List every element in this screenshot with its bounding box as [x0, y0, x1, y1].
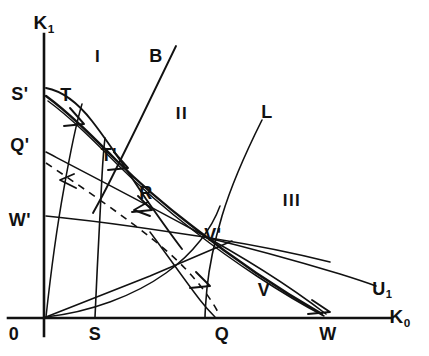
point-W-prime-label: W' — [9, 211, 31, 229]
diagram-canvas — [0, 0, 429, 356]
curve-T-label: T — [60, 86, 72, 104]
curve-L-label: L — [261, 103, 273, 121]
y-axis-label: K1 — [34, 13, 55, 32]
curve-U1-label: U1 — [372, 280, 392, 298]
point-Q-prime-label: Q' — [10, 136, 29, 154]
curve-origin-to-Sprime — [46, 104, 82, 317]
axes-group — [8, 34, 392, 336]
region-II-label: II — [176, 105, 188, 122]
curve-T-prime-label: T' — [101, 146, 117, 164]
arc-origin-to-L — [46, 206, 220, 317]
point-W-label: W — [319, 325, 337, 343]
curve-B-path — [93, 46, 176, 213]
region-I-label: I — [95, 48, 101, 65]
curve-V-label: V — [258, 281, 271, 299]
origin-label: 0 — [9, 325, 20, 343]
arrow-leftward-lower — [134, 202, 150, 216]
region-III-label: III — [283, 192, 302, 209]
phase-diagram-figure: K0 K1 0 S Q W S' Q' W' B L T T' R V' V U… — [0, 0, 429, 356]
point-S-label: S — [89, 325, 102, 343]
x-axis-label: K0 — [390, 307, 411, 326]
curve-B-label: B — [149, 47, 163, 65]
curve-V-prime-label: V' — [204, 226, 221, 244]
curve-R-label: R — [139, 184, 153, 202]
curve-U1-path — [204, 237, 376, 286]
trajectory-Qprime-to-W — [46, 152, 326, 314]
point-Q-label: Q — [215, 325, 230, 343]
point-S-prime-label: S' — [11, 85, 28, 103]
